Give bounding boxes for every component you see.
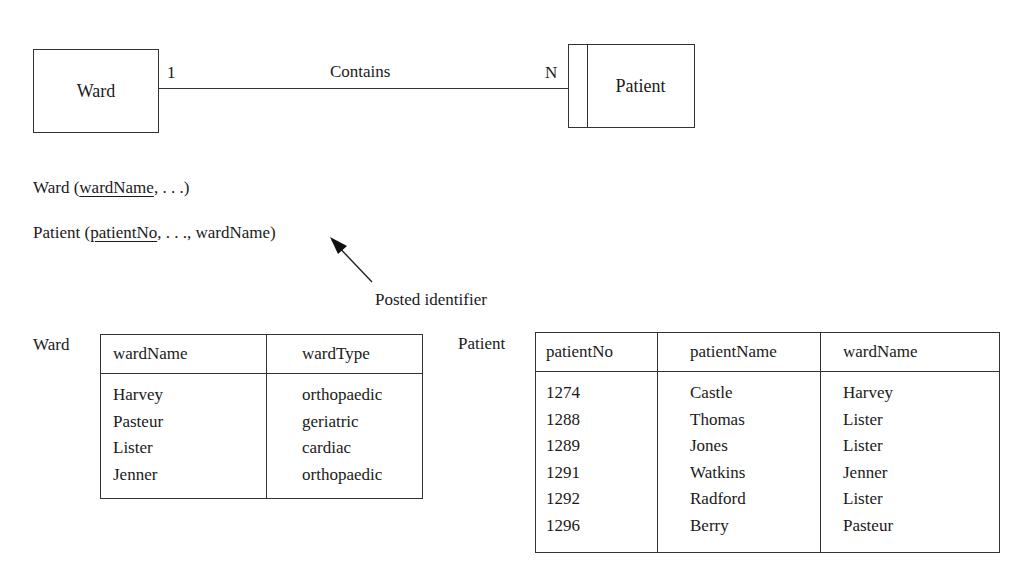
- column-header: wardName: [101, 335, 267, 374]
- table-cell: Lister: [843, 486, 999, 513]
- table-cell: orthopaedic: [302, 462, 422, 489]
- table-cell: Harvey: [843, 380, 999, 407]
- table-cell: Jones: [690, 433, 820, 460]
- column-header: wardName: [821, 333, 1000, 372]
- ward-table: wardName wardType Harvey Pasteur Lister …: [100, 334, 423, 499]
- table-cell: Castle: [690, 380, 820, 407]
- table-cell: 1292: [546, 486, 657, 513]
- table-cell: Lister: [843, 433, 999, 460]
- table-cell: 1296: [546, 513, 657, 540]
- patient-primary-key: patientNo: [90, 223, 157, 242]
- table-cell: cardiac: [302, 435, 422, 462]
- ward-entity-label: Ward: [77, 81, 116, 102]
- table-cell: 1288: [546, 407, 657, 434]
- table-cell: orthopaedic: [302, 382, 422, 409]
- entity-divider: [587, 45, 588, 127]
- ward-entity: Ward: [33, 49, 159, 133]
- table-cell: Harvey: [113, 382, 266, 409]
- ward-primary-key: wardName: [79, 178, 154, 197]
- table-cell: Pasteur: [843, 513, 999, 540]
- posted-identifier-label: Posted identifier: [375, 290, 487, 310]
- table-cell: Pasteur: [113, 409, 266, 436]
- table-cell: 1291: [546, 460, 657, 487]
- patient-entity-label: Patient: [616, 76, 666, 97]
- table-cell: 1274: [546, 380, 657, 407]
- table-cell: Lister: [113, 435, 266, 462]
- table-cell: Watkins: [690, 460, 820, 487]
- column-header: patientNo: [536, 333, 658, 372]
- column-header: patientName: [658, 333, 821, 372]
- ward-schema: Ward (wardName, . . .): [33, 178, 189, 198]
- table-cell: Jenner: [113, 462, 266, 489]
- patient-schema: Patient (patientNo, . . ., wardName): [33, 223, 276, 243]
- column-header: wardType: [267, 335, 423, 374]
- relationship-line: [159, 88, 572, 89]
- patient-table: patientNo patientName wardName 1274 1288…: [535, 332, 1000, 553]
- table-cell: Radford: [690, 486, 820, 513]
- arrow-icon: [320, 230, 380, 290]
- patient-entity: Patient: [568, 44, 695, 128]
- table-cell: Lister: [843, 407, 999, 434]
- table-cell: 1289: [546, 433, 657, 460]
- table-cell: Jenner: [843, 460, 999, 487]
- cardinality-one: 1: [167, 63, 176, 83]
- ward-table-label: Ward: [33, 335, 69, 355]
- table-cell: Berry: [690, 513, 820, 540]
- patient-table-label: Patient: [458, 334, 505, 354]
- cardinality-many: N: [545, 63, 557, 83]
- relationship-label: Contains: [330, 62, 390, 82]
- table-cell: Thomas: [690, 407, 820, 434]
- table-cell: geriatric: [302, 409, 422, 436]
